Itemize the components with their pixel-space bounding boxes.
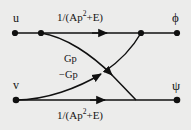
- node-label-v: v: [13, 79, 19, 91]
- node-u-dot: [12, 30, 18, 36]
- signal-flow-graph-figure: u v ϕ ψ 1/(Ap2+E) 1/(Ap2+E) Gp −Gp: [0, 0, 191, 130]
- bottom-transfer-prefix: 1/(Ap: [57, 109, 83, 121]
- edge-label-top-transfer: 1/(Ap2+E): [57, 12, 103, 23]
- top-transfer-suffix: +E): [86, 11, 103, 23]
- edge-label-cross-up: −Gp: [59, 70, 78, 81]
- edge-cross-down-tail: [108, 71, 136, 100]
- node-n1-dot: [38, 30, 44, 36]
- node-label-phi: ϕ: [172, 11, 179, 24]
- node-phi-dot: [174, 30, 180, 36]
- edge-label-bottom-transfer: 1/(Ap2+E): [57, 110, 103, 121]
- bottom-transfer-suffix: +E): [86, 109, 103, 121]
- top-transfer-prefix: 1/(Ap: [57, 11, 83, 23]
- node-label-psi: ψ: [172, 79, 180, 92]
- edge-label-cross-down: Gp: [64, 54, 77, 65]
- node-psi-dot: [174, 97, 181, 104]
- edge-cross-up-tail: [104, 33, 141, 72]
- node-n2-dot: [138, 30, 144, 36]
- node-v-dot: [13, 97, 20, 104]
- node-label-u: u: [13, 12, 19, 24]
